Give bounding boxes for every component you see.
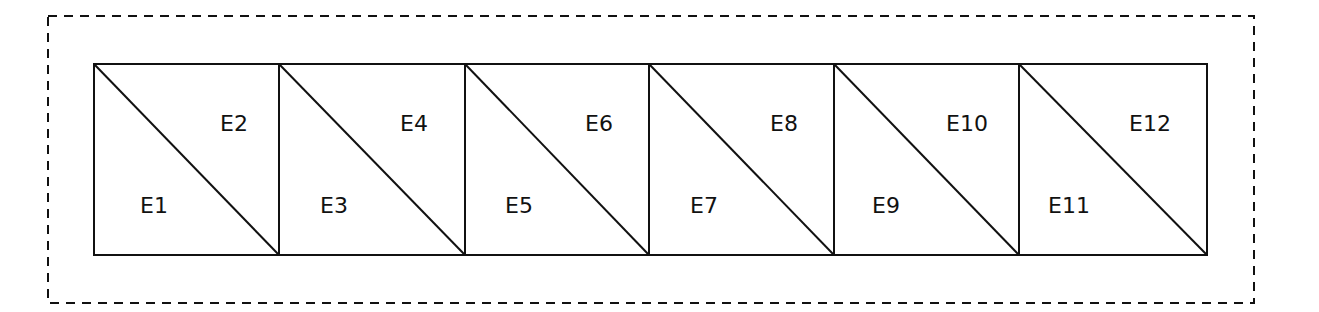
element-label: E3 [320,193,348,218]
element-label: E5 [505,193,533,218]
cell-diagonal [834,64,1019,255]
cell-diagonal [94,64,279,255]
dashed-boundary [48,16,1254,303]
element-label: E12 [1129,111,1171,136]
cell-diagonal [465,64,649,255]
strip-outline [94,64,1207,255]
element-label: E7 [690,193,718,218]
element-label: E6 [585,111,613,136]
element-label: E10 [946,111,988,136]
cell-diagonal [1019,64,1207,255]
cell-diagonal [279,64,465,255]
cell-2: E3 E4 [279,64,465,255]
mesh-diagram: E1 E2 E3 E4 E5 E6 E7 E8 E9 E10 [0,0,1319,312]
cell-4: E7 E8 [649,64,834,255]
cell-6: E11 E12 [1019,64,1207,255]
element-label: E1 [140,193,168,218]
element-label: E11 [1048,193,1090,218]
element-label: E2 [220,111,248,136]
cell-1: E1 E2 [94,64,279,255]
element-strip: E1 E2 E3 E4 E5 E6 E7 E8 E9 E10 [94,64,1207,255]
cell-3: E5 E6 [465,64,649,255]
element-label: E8 [770,111,798,136]
element-label: E9 [872,193,900,218]
cell-5: E9 E10 [834,64,1019,255]
element-label: E4 [400,111,428,136]
cell-diagonal [649,64,834,255]
